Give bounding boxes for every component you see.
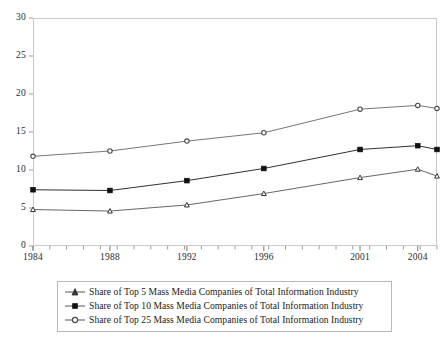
data-point-marker	[358, 147, 363, 152]
legend-item-label: Share of Top 5 Mass Media Companies of T…	[89, 286, 359, 298]
data-point-marker	[185, 202, 190, 207]
legend-item: Share of Top 5 Mass Media Companies of T…	[64, 285, 385, 299]
data-point-marker	[435, 106, 439, 110]
legend-item: Share of Top 10 Mass Media Companies of …	[64, 299, 385, 313]
data-point-marker	[435, 174, 440, 179]
x-axis-tick-label: 2001	[340, 252, 380, 262]
x-axis-tick-label: 1984	[13, 252, 53, 262]
y-axis-tick-label: 5	[4, 202, 26, 212]
y-axis-tick-label: 15	[4, 126, 26, 136]
x-axis-tick-label: 1996	[244, 252, 284, 262]
data-point-marker	[358, 107, 362, 111]
data-point-marker	[415, 167, 420, 172]
data-point-marker	[262, 131, 266, 135]
x-axis-tick-label: 1988	[90, 252, 130, 262]
data-series-layer	[31, 103, 440, 213]
legend-item: Share of Top 25 Mass Media Companies of …	[64, 313, 385, 327]
x-axis-tick-label: 2004	[398, 252, 438, 262]
legend-item-label: Share of Top 25 Mass Media Companies of …	[89, 314, 363, 326]
y-axis-tick-label: 20	[4, 88, 26, 98]
data-point-marker	[31, 154, 35, 158]
data-point-marker	[416, 103, 420, 107]
y-axis-tick-label: 0	[4, 240, 26, 250]
data-point-marker	[415, 143, 420, 148]
axis-ticks	[29, 18, 437, 251]
y-axis-tick-label: 30	[4, 12, 26, 22]
data-point-marker	[261, 191, 266, 196]
data-point-marker	[435, 147, 440, 152]
legend-item-label: Share of Top 10 Mass Media Companies of …	[89, 300, 363, 312]
data-point-marker	[185, 178, 190, 183]
data-point-marker	[108, 209, 113, 214]
line-chart-figure: 051015202530 198419881992199620012004 Sh…	[0, 0, 448, 338]
data-point-marker	[262, 166, 267, 171]
data-point-marker	[185, 139, 189, 143]
legend-marker-square-icon	[64, 300, 86, 312]
legend-marker-circle-icon	[64, 314, 86, 326]
data-point-marker	[358, 175, 363, 180]
y-axis-tick-label: 25	[4, 50, 26, 60]
legend-marker-triangle-icon	[64, 286, 86, 298]
data-point-marker	[108, 149, 112, 153]
x-axis-tick-label: 1992	[167, 252, 207, 262]
chart-legend: Share of Top 5 Mass Media Companies of T…	[57, 281, 392, 332]
data-point-marker	[31, 187, 36, 192]
data-point-marker	[108, 188, 113, 193]
y-axis-tick-label: 10	[4, 164, 26, 174]
